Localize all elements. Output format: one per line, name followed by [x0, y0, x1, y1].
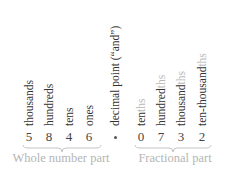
- digit-ten-thousandths: 2: [195, 130, 209, 144]
- fractional-part-caption: Fractional part: [134, 151, 216, 166]
- decimal-point-dot: [114, 136, 117, 139]
- digit-tenths: 0: [134, 130, 148, 144]
- digit-thousandths: 3: [174, 130, 188, 144]
- place-label-tenths: tenths: [135, 99, 147, 126]
- digit-hundredths: 7: [154, 130, 168, 144]
- place-label-ones: ones: [83, 105, 95, 126]
- place-label-thousands: thousands: [23, 80, 35, 126]
- place-label-thousandths: thousandths: [175, 71, 187, 126]
- place-label-tens: tens: [63, 107, 75, 126]
- whole-part-caption: Whole number part: [8, 151, 114, 166]
- place-label-hundredths: hundredths: [155, 75, 167, 126]
- digit-thousands: 5: [22, 130, 36, 144]
- place-label-ten-thousandths: ten-thousandths: [196, 53, 208, 126]
- digit-ones: 6: [82, 130, 96, 144]
- place-label-hundreds: hundreds: [43, 84, 55, 126]
- digit-tens: 4: [62, 130, 76, 144]
- decimal-point-label: decimal point (“and”): [109, 26, 121, 126]
- digit-hundreds: 8: [42, 130, 56, 144]
